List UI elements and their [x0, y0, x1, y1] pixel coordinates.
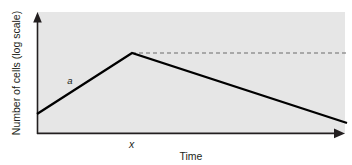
curve-label-a: a: [67, 75, 72, 86]
figure-container: a x Time Number of cells (log scale): [0, 0, 352, 165]
y-axis-title: Number of cells (log scale): [10, 11, 22, 135]
x-axis-title: Time: [180, 150, 203, 162]
chart-svg: a x Time Number of cells (log scale): [0, 0, 352, 165]
x-tick-label: x: [128, 138, 135, 150]
